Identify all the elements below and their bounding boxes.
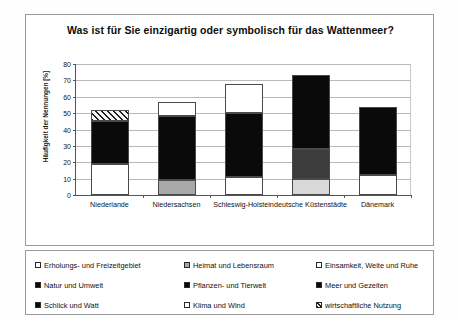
legend-item[interactable]: Heimat und Lebensraum (184, 261, 316, 270)
legend-item[interactable]: Klima und Wind (184, 301, 316, 310)
bar-segment[interactable] (158, 116, 196, 180)
legend-panel: Erholungs- und FreizeitgebietHeimat und … (25, 250, 434, 315)
y-tick-label: 40 (63, 126, 71, 133)
legend-label: wirtschaftliche Nutzung (325, 301, 401, 310)
bar-deutsche-k-stenst-dte[interactable] (292, 75, 330, 195)
y-tick-label: 0 (67, 192, 71, 199)
plot-area: 01020304050607080NiederlandeNiedersachse… (75, 64, 411, 196)
legend-swatch-icon (35, 302, 41, 308)
y-tick-mark (73, 146, 76, 147)
y-tick-label: 10 (63, 175, 71, 182)
gridline (76, 64, 411, 65)
chart-title: Was ist für Sie einzigartig oder symboli… (26, 24, 435, 36)
y-tick-mark (73, 113, 76, 114)
y-tick-mark (73, 179, 76, 180)
bar-d-nemark[interactable] (359, 107, 397, 195)
legend-label: Klima und Wind (193, 301, 245, 310)
y-tick-label: 20 (63, 159, 71, 166)
bar-segment[interactable] (292, 75, 330, 149)
legend-swatch-icon (184, 282, 190, 288)
chart-panel: Was ist für Sie einzigartig oder symboli… (25, 14, 434, 246)
legend-item[interactable]: Erholungs- und Freizeitgebiet (35, 261, 184, 270)
chart-screenshot: Was ist für Sie einzigartig oder symboli… (0, 0, 458, 324)
bar-schleswig-holstein[interactable] (225, 84, 263, 195)
bar-segment[interactable] (91, 121, 129, 164)
x-tick-mark (143, 195, 144, 198)
legend-swatch-icon (184, 302, 190, 308)
legend-swatch-icon (316, 302, 322, 308)
x-category-label: Dänemark (335, 200, 421, 209)
y-tick-mark (73, 130, 76, 131)
y-axis-title: Häufigkeit der Nennungen [%] (42, 51, 49, 183)
bar-segment[interactable] (225, 113, 263, 177)
y-tick-mark (73, 162, 76, 163)
x-tick-mark (277, 195, 278, 198)
x-tick-mark (344, 195, 345, 198)
bar-segment[interactable] (359, 175, 397, 195)
y-tick-mark (73, 80, 76, 81)
bar-segment[interactable] (158, 102, 196, 117)
legend-item[interactable]: Schlick und Watt (35, 301, 184, 310)
bar-segment[interactable] (91, 164, 129, 195)
y-tick-label: 30 (63, 142, 71, 149)
bar-segment[interactable] (225, 177, 263, 195)
y-tick-mark (73, 97, 76, 98)
legend-label: Einsamkeit, Weite und Ruhe (325, 261, 418, 270)
legend-item[interactable]: wirtschaftliche Nutzung (316, 301, 427, 310)
bar-segment[interactable] (292, 149, 330, 178)
legend-item[interactable]: Natur und Umwelt (35, 281, 184, 290)
legend-grid: Erholungs- und FreizeitgebietHeimat und … (35, 255, 427, 315)
bar-niederlande[interactable] (91, 110, 129, 195)
legend-label: Erholungs- und Freizeitgebiet (44, 261, 141, 270)
gridline (76, 80, 411, 81)
bar-niedersachsen[interactable] (158, 102, 196, 195)
legend-swatch-icon (35, 282, 41, 288)
legend-swatch-icon (316, 282, 322, 288)
legend-item[interactable]: Meer und Gezeiten (316, 281, 427, 290)
legend-item[interactable]: Pflanzen- und Tierwelt (184, 281, 316, 290)
y-tick-label: 80 (63, 61, 71, 68)
bar-segment[interactable] (292, 179, 330, 195)
bar-segment[interactable] (91, 110, 129, 121)
legend-label: Pflanzen- und Tierwelt (193, 281, 266, 290)
y-tick-mark (73, 64, 76, 65)
legend-item[interactable]: Einsamkeit, Weite und Ruhe (316, 261, 427, 270)
legend-swatch-icon (184, 262, 190, 268)
legend-swatch-icon (35, 262, 41, 268)
y-tick-label: 60 (63, 93, 71, 100)
legend-label: Natur und Umwelt (44, 281, 103, 290)
scan-edge (0, 320, 458, 324)
bar-segment[interactable] (225, 84, 263, 113)
legend-swatch-icon (316, 262, 322, 268)
x-tick-mark (210, 195, 211, 198)
legend-label: Schlick und Watt (44, 301, 99, 310)
bar-segment[interactable] (359, 107, 397, 176)
y-tick-mark (73, 195, 76, 196)
y-tick-label: 50 (63, 110, 71, 117)
legend-label: Meer und Gezeiten (325, 281, 388, 290)
bar-segment[interactable] (158, 180, 196, 195)
y-tick-label: 70 (63, 77, 71, 84)
legend-label: Heimat und Lebensraum (193, 261, 274, 270)
x-tick-mark (411, 195, 412, 198)
